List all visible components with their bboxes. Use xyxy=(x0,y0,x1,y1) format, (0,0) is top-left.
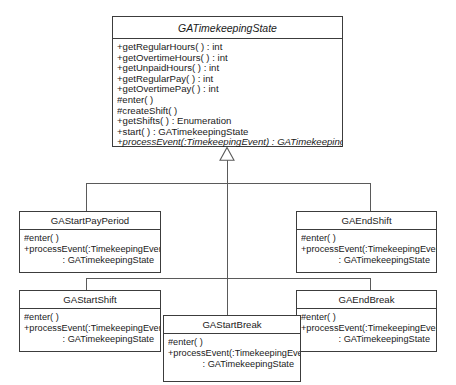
class-title-gastartpayperiod: GAStartPayPeriod xyxy=(20,212,160,230)
class-title-gastartshift: GAStartShift xyxy=(20,291,160,309)
class-members-gatimekeepingstate: +getRegularHours( ) : int +getOvertimeHo… xyxy=(113,39,342,150)
connector-drop-startshift xyxy=(86,278,87,290)
class-title-gatimekeepingstate: GATimekeepingState xyxy=(113,17,342,39)
connector-drop-endshift xyxy=(370,183,371,211)
member-enter: #enter( ) xyxy=(117,95,342,106)
class-box-gaendshift[interactable]: GAEndShift #enter( ) +processEvent(:Time… xyxy=(296,211,437,273)
class-members-gaendshift: #enter( ) +processEvent(:TimekeepingEven… xyxy=(297,230,436,270)
member-processevent: +processEvent(:TimekeepingEvent) xyxy=(24,244,160,255)
member-processevent-return: : GATimekeepingState xyxy=(301,334,436,345)
member-processevent-return: : GATimekeepingState xyxy=(24,334,160,345)
member-enter: #enter( ) xyxy=(301,312,436,323)
class-title-gaendshift: GAEndShift xyxy=(297,212,436,230)
generalization-bus-lower xyxy=(86,278,371,279)
class-title-gastartbreak: GAStartBreak xyxy=(164,316,300,334)
class-box-gastartpayperiod[interactable]: GAStartPayPeriod #enter( ) +processEvent… xyxy=(19,211,161,273)
class-members-gastartshift: #enter( ) +processEvent(:TimekeepingEven… xyxy=(20,309,160,349)
member-getregularhours: +getRegularHours( ) : int xyxy=(117,42,342,53)
member-getovertimehours: +getOvertimeHours( ) : int xyxy=(117,53,342,64)
class-box-gastartshift[interactable]: GAStartShift #enter( ) +processEvent(:Ti… xyxy=(19,290,161,352)
member-processevent: +processEvent(:TimekeepingEvent) : GATim… xyxy=(117,137,342,148)
member-processevent: +processEvent(:TimekeepingEvent) xyxy=(168,348,300,359)
member-createshift: #createShift( ) xyxy=(117,106,342,117)
member-processevent-return: : GATimekeepingState xyxy=(168,359,300,370)
generalization-bus-upper xyxy=(86,183,371,184)
member-getregularpay: +getRegularPay( ) : int xyxy=(117,74,342,85)
uml-class-diagram: GATimekeepingState +getRegularHours( ) :… xyxy=(0,0,456,385)
class-title-gaendbreak: GAEndBreak xyxy=(297,291,436,309)
member-enter: #enter( ) xyxy=(301,233,436,244)
class-box-gaendbreak[interactable]: GAEndBreak #enter( ) +processEvent(:Time… xyxy=(296,290,437,352)
member-processevent-return: : GATimekeepingState xyxy=(301,255,436,266)
member-getunpaidhours: +getUnpaidHours( ) : int xyxy=(117,63,342,74)
class-box-gastartbreak[interactable]: GAStartBreak #enter( ) +processEvent(:Ti… xyxy=(163,315,301,382)
member-enter: #enter( ) xyxy=(168,337,300,348)
class-members-gastartpayperiod: #enter( ) +processEvent(:TimekeepingEven… xyxy=(20,230,160,270)
member-processevent-return: : GATimekeepingState xyxy=(24,255,160,266)
class-box-gatimekeepingstate[interactable]: GATimekeepingState +getRegularHours( ) :… xyxy=(112,16,343,147)
member-start: +start( ) : GATimekeepingState xyxy=(117,127,342,138)
connector-drop-startpayperiod xyxy=(86,183,87,211)
member-enter: #enter( ) xyxy=(24,233,160,244)
member-getshifts: +getShifts( ) : Enumeration xyxy=(117,116,342,127)
member-processevent: +processEvent(:TimekeepingEvent) xyxy=(301,323,436,334)
member-processevent: +processEvent(:TimekeepingEvent) xyxy=(24,323,160,334)
connector-drop-endbreak xyxy=(370,278,371,290)
member-processevent: +processEvent(:TimekeepingEvent) xyxy=(301,244,436,255)
class-members-gaendbreak: #enter( ) +processEvent(:TimekeepingEven… xyxy=(297,309,436,349)
member-enter: #enter( ) xyxy=(24,312,160,323)
member-getovertimepay: +getOvertimePay( ) : int xyxy=(117,84,342,95)
class-members-gastartbreak: #enter( ) +processEvent(:TimekeepingEven… xyxy=(164,334,300,374)
